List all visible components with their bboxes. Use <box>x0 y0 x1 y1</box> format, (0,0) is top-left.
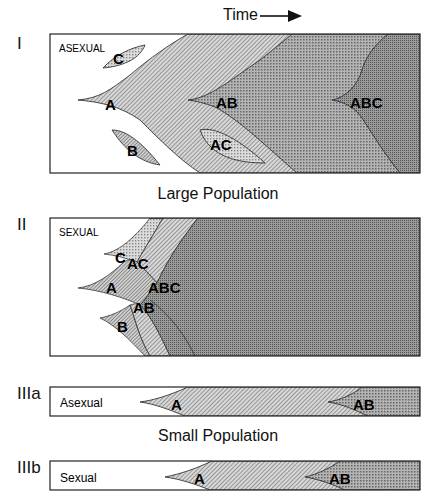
panel-ii-label-ab: AB <box>133 299 155 316</box>
panel-iiia-label-a: A <box>171 396 182 413</box>
panel-i-label-a: A <box>105 96 116 113</box>
panel-ii-label-ac: AC <box>127 255 149 272</box>
panel-iiia-mode-label: Asexual <box>60 396 103 410</box>
panel-ii-label-b: B <box>117 318 128 335</box>
panel-i-label-b: B <box>127 142 138 159</box>
panel-i-label-ac: AC <box>210 136 232 153</box>
panel-ii-label-a: A <box>106 279 117 296</box>
panel-iiib-sexual-small <box>50 461 420 490</box>
panel-iiib-label-a: A <box>194 470 205 487</box>
panel-iiia-label-ab: AB <box>353 396 375 413</box>
panel-i-label-abc: ABC <box>350 94 383 111</box>
panel-i-label-ab: AB <box>216 94 238 111</box>
panel-i-mode-label: ASEXUAL <box>59 43 106 54</box>
panel-i-label-c: C <box>113 50 124 67</box>
panel-ii-label-c: C <box>115 249 126 266</box>
panel-ii-label-abc: ABC <box>148 279 181 296</box>
panel-iiib-mode-label: Sexual <box>60 471 97 485</box>
diagram-canvas: ASEXUAL C A B AB AC ABC SEXUAL C AC A AB… <box>0 0 436 502</box>
panel-iiib-label-ab: AB <box>329 470 351 487</box>
panel-ii-mode-label: SEXUAL <box>59 227 99 238</box>
